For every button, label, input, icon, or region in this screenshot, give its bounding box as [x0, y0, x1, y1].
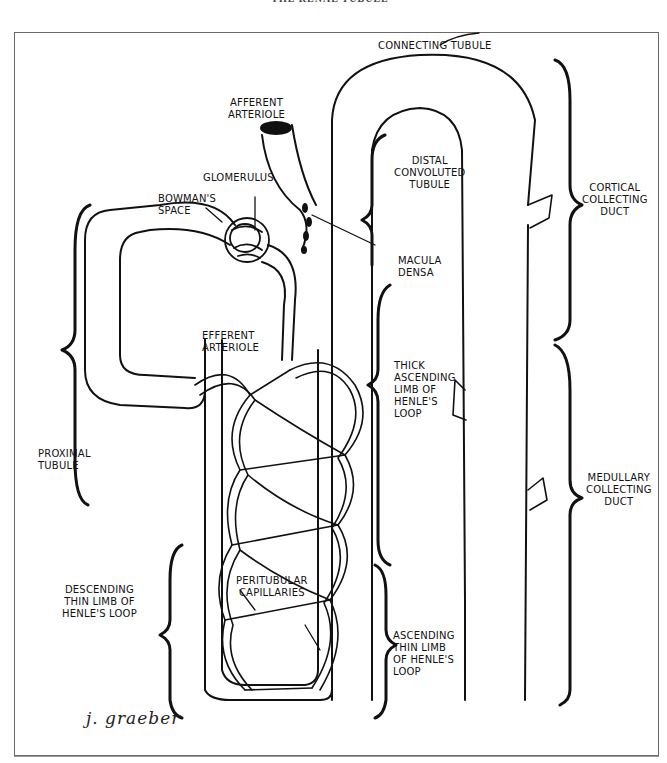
- label-peritubular-capillaries: PERITUBULAR CAPILLARIES: [236, 575, 308, 599]
- proximal-tubule-shape: [85, 203, 235, 409]
- label-efferent-arteriole: EFFERENT ARTERIOLE: [202, 330, 259, 354]
- label-bowmans-space: BOWMAN'S SPACE: [158, 193, 216, 217]
- label-medullary-collecting-duct: MEDULLARY COLLECTING DUCT: [586, 472, 652, 508]
- afferent-arteriole-shape: [261, 122, 316, 250]
- label-connecting-tubule: CONNECTING TUBULE: [378, 40, 491, 52]
- label-afferent-arteriole: AFFERENT ARTERIOLE: [228, 97, 285, 121]
- label-cortical-collecting-duct: CORTICAL COLLECTING DUCT: [582, 182, 648, 218]
- label-distal-convoluted-tubule: DISTAL CONVOLUTED TUBULE: [394, 155, 465, 191]
- label-proximal-tubule: PROXIMAL TUBULE: [38, 448, 91, 472]
- peritubular-capillaries-shape: [195, 363, 363, 690]
- braces: [62, 60, 582, 718]
- label-ascending-thin-limb: ASCENDING THIN LIMB OF HENLE'S LOOP: [393, 630, 455, 678]
- loop-of-henle-shape: [205, 340, 332, 700]
- label-descending-thin-limb: DESCENDING THIN LIMB OF HENLE'S LOOP: [62, 584, 137, 620]
- label-glomerulus: GLOMERULUS: [203, 172, 274, 184]
- artist-signature: j. graeber: [86, 708, 180, 728]
- glomerulus-shape: [225, 218, 269, 262]
- nephron-diagram: [0, 0, 667, 763]
- label-macula-densa: MACULA DENSA: [398, 255, 441, 279]
- label-thick-ascending-limb: THICK ASCENDING LIMB OF HENLE'S LOOP: [394, 360, 456, 420]
